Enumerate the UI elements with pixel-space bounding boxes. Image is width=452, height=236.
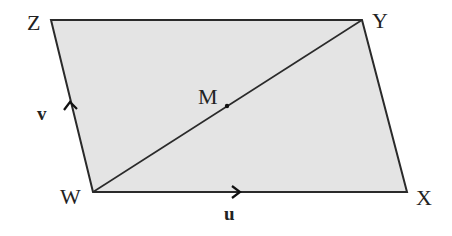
vector-label-v: v	[37, 103, 47, 124]
parallelogram-diagram: Z Y X W M u v	[0, 0, 452, 236]
vertex-label-z: Z	[27, 10, 40, 35]
vector-label-u: u	[224, 203, 235, 224]
vertex-label-w: W	[60, 184, 81, 209]
midpoint-label-m: M	[198, 84, 218, 109]
vertex-label-y: Y	[372, 8, 388, 33]
vertex-label-x: X	[416, 185, 432, 210]
midpoint-m-dot	[225, 104, 229, 108]
